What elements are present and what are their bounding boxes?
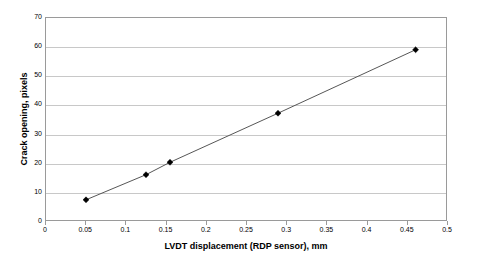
series-plot <box>46 18 446 220</box>
x-tick-label: 0.15 <box>151 226 181 234</box>
y-tick-label: 40 <box>12 100 42 108</box>
data-point-marker <box>167 159 173 165</box>
x-tick-label: 0.45 <box>392 226 422 234</box>
data-point-marker <box>413 47 419 53</box>
x-tick-label: 0 <box>30 226 60 234</box>
series-markers <box>83 47 419 203</box>
y-tick-label: 30 <box>12 130 42 138</box>
data-point-marker <box>143 172 149 178</box>
x-tick-label: 0.05 <box>70 226 100 234</box>
x-tick-mark <box>206 221 207 225</box>
x-tick-mark <box>166 221 167 225</box>
x-tick-mark <box>326 221 327 225</box>
x-tick-label: 0.25 <box>231 226 261 234</box>
x-axis-title: LVDT displacement (RDP sensor), mm <box>45 241 447 251</box>
y-tick-label: 70 <box>12 13 42 21</box>
x-tick-mark <box>45 221 46 225</box>
y-tick-label: 60 <box>12 42 42 50</box>
x-tick-label: 0.2 <box>191 226 221 234</box>
x-tick-label: 0.5 <box>432 226 462 234</box>
y-tick-label: 10 <box>12 188 42 196</box>
series-line <box>86 50 416 200</box>
x-tick-mark <box>125 221 126 225</box>
x-tick-mark <box>85 221 86 225</box>
y-tick-label: 0 <box>12 217 42 225</box>
y-tick-label: 50 <box>12 71 42 79</box>
plot-area <box>45 17 447 221</box>
x-tick-mark <box>286 221 287 225</box>
x-tick-label: 0.1 <box>110 226 140 234</box>
x-tick-mark <box>367 221 368 225</box>
x-tick-label: 0.3 <box>271 226 301 234</box>
x-tick-mark <box>246 221 247 225</box>
x-tick-mark <box>447 221 448 225</box>
x-tick-label: 0.35 <box>311 226 341 234</box>
y-tick-label: 20 <box>12 159 42 167</box>
chart-figure: Crack opening, pixels 010203040506070 00… <box>0 0 483 264</box>
data-point-marker <box>83 197 89 203</box>
x-tick-mark <box>407 221 408 225</box>
data-point-marker <box>275 110 281 116</box>
x-tick-label: 0.4 <box>352 226 382 234</box>
